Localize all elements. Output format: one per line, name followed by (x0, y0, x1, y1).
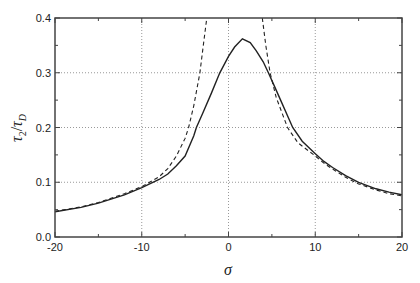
y-tick-label: 0.2 (36, 122, 51, 134)
line-chart: -20-1001020 0.00.10.20.30.4 σ τ2/τD (0, 0, 420, 283)
x-axis-label: σ (224, 261, 233, 278)
y-tick-label: 0.1 (36, 176, 51, 188)
y-tick-label: 0.3 (36, 67, 51, 79)
y-label-sub-d: D (17, 113, 28, 122)
x-tick-labels: -20-1001020 (47, 241, 408, 253)
y-tick-labels: 0.00.10.20.30.4 (36, 12, 51, 243)
series-solid-line (55, 39, 402, 212)
x-tick-label: -10 (134, 241, 150, 253)
chart-svg: -20-1001020 0.00.10.20.30.4 σ τ2/τD (0, 0, 420, 283)
y-tick-label: 0.4 (36, 12, 51, 24)
x-tick-label: 0 (225, 241, 231, 253)
x-tick-label: 10 (309, 241, 321, 253)
x-tick-label: 20 (396, 241, 408, 253)
grid-lines (55, 18, 402, 237)
svg-text:τ2/τD: τ2/τD (8, 113, 28, 142)
y-axis-label: τ2/τD (8, 113, 28, 142)
y-tick-label: 0.0 (36, 231, 51, 243)
